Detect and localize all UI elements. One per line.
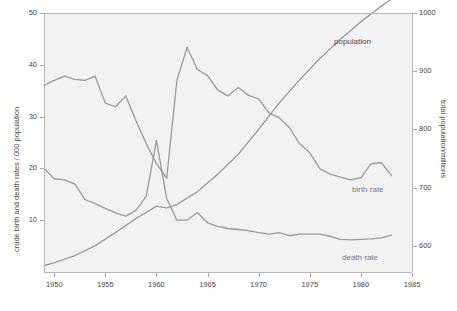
axis-top-spine [44,13,412,14]
x-tick [310,273,311,277]
series-line-death-rate [44,140,392,239]
x-tick [54,273,55,277]
chart-figure: 1020304050 6007008009001000 195019551960… [0,0,457,311]
y2-tick-label: 900 [419,67,432,75]
y-axis-title: crude birth and death rates / 000 popula… [12,107,21,252]
y2-tick-label: 600 [419,242,432,250]
x-tick [361,273,362,277]
y-tick-label: 50 [11,9,37,17]
x-tick [156,273,157,277]
axis-right-spine [412,13,413,272]
x-tick [208,273,209,277]
y2-tick-label: 800 [419,125,432,133]
axis-left-spine [44,13,45,272]
x-tick-label: 1970 [242,281,276,289]
y2-tick [413,188,417,189]
x-tick-label: 1955 [88,281,122,289]
y2-tick [413,71,417,72]
series-line-birth-rate [44,47,392,180]
x-tick [105,273,106,277]
y-tick-label: 40 [11,61,37,69]
plot-area [44,13,412,272]
y2-tick [413,129,417,130]
y-tick [40,13,44,14]
series-label-birth-rate: birth rate [352,185,384,194]
x-tick-label: 1985 [395,281,429,289]
y2-tick [413,13,417,14]
x-tick-label: 1975 [293,281,327,289]
y2-tick-label: 1000 [419,9,436,17]
axis-bottom-spine [44,272,412,273]
y-tick [40,65,44,66]
y-tick [40,220,44,221]
series-label-population: population [334,37,371,46]
x-tick-label: 1980 [344,281,378,289]
y2-tick-label: 700 [419,184,432,192]
y2-axis-title: total population/millions [439,100,448,178]
x-tick-label: 1965 [191,281,225,289]
y-tick [40,117,44,118]
y-tick [40,168,44,169]
series-lines [44,13,412,272]
x-tick-label: 1960 [139,281,173,289]
y2-tick [413,246,417,247]
x-tick [259,273,260,277]
x-tick [412,273,413,277]
x-tick-label: 1950 [37,281,71,289]
series-label-death-rate: death rate [342,253,378,262]
